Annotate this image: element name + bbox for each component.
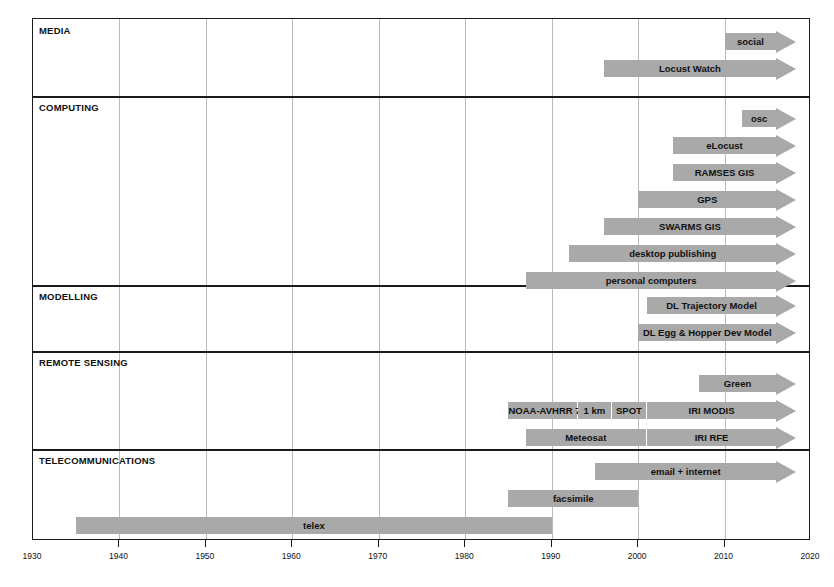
bar-label: osc [742,110,777,127]
timeline-bar-green: Green [699,375,777,392]
timeline-segment-iri-modis: IRI MODIS [647,402,777,419]
section-label-media: MEDIA [39,25,71,36]
axis-tick-1940 [118,540,119,547]
timeline-bar-swarms-gis: SWARMS GIS [604,218,777,235]
axis-tick-label-1950: 1950 [195,551,214,561]
axis-tick-1990 [551,540,552,547]
section-divider-computing [33,96,809,98]
timeline-segment-noaa-avhrr-7km: NOAA-AVHRR 7km [508,402,577,419]
bar-label: DL Egg & Hopper Dev Model [638,324,776,341]
axis-tick-label-1980: 1980 [455,551,474,561]
bar-label: RAMSES GIS [673,164,777,181]
axis-tick-1980 [464,540,465,547]
bar-label: personal computers [526,272,777,289]
axis-tick-label-2010: 2010 [714,551,733,561]
bar-label: Locust Watch [604,60,777,77]
bar-label: IRI RFE [647,429,777,446]
bar-label: Meteosat [526,429,646,446]
section-label-telecommunications: TELECOMMUNICATIONS [39,455,155,466]
plot-area: MEDIACOMPUTINGMODELLINGREMOTE SENSINGTEL… [32,18,810,540]
bar-label: social [725,33,777,50]
bar-label: facsimile [508,490,638,507]
timeline-bar-dl-trajectory-model: DL Trajectory Model [647,297,777,314]
section-divider-remote-sensing [33,351,809,353]
timeline-bar-elocust: eLocust [673,137,777,154]
bar-label: NOAA-AVHRR 7km [508,402,576,419]
timeline-bar-gps: GPS [638,191,776,208]
bar-label: email + internet [595,463,777,480]
timeline-bar-osc: osc [742,110,777,127]
axis-tick-label-2000: 2000 [628,551,647,561]
section-label-remote-sensing: REMOTE SENSING [39,357,128,368]
axis-tick-label-1960: 1960 [282,551,301,561]
axis-tick-1960 [291,540,292,547]
timeline-bar-telex: telex [76,517,551,534]
bar-label: DL Trajectory Model [647,297,777,314]
timeline-bar-email-internet: email + internet [595,463,777,480]
timeline-bar-locust-watch: Locust Watch [604,60,777,77]
timeline-chart: MEDIACOMPUTINGMODELLINGREMOTE SENSINGTEL… [0,0,834,587]
bar-label: telex [76,517,551,534]
axis-tick-label-1970: 1970 [368,551,387,561]
bar-label: IRI MODIS [647,402,777,419]
bar-label: SPOT [612,402,646,419]
axis-tick-label-2020: 2020 [801,551,820,561]
axis-tick-2010 [724,540,725,547]
timeline-bar-facsimile: facsimile [508,490,638,507]
axis-tick-label-1990: 1990 [541,551,560,561]
axis-tick-label-1930: 1930 [23,551,42,561]
section-label-modelling: MODELLING [39,291,98,302]
section-label-computing: COMPUTING [39,102,99,113]
axis-tick-2000 [637,540,638,547]
figure-caption [30,568,810,584]
timeline-segment-spot: SPOT [612,402,647,419]
bar-label: eLocust [673,137,777,154]
bar-label: desktop publishing [569,245,776,262]
timeline-bar-desktop-publishing: desktop publishing [569,245,776,262]
axis-tick-label-1940: 1940 [109,551,128,561]
bar-label: GPS [638,191,776,208]
timeline-segment-meteosat: Meteosat [526,429,647,446]
timeline-bar-dl-egg-hopper-dev-model: DL Egg & Hopper Dev Model [638,324,776,341]
timeline-bar-ramses-gis: RAMSES GIS [673,164,777,181]
timeline-segment-1-km: 1 km [578,402,613,419]
axis-tick-1950 [205,540,206,547]
bar-label: SWARMS GIS [604,218,777,235]
timeline-bar-personal-computers: personal computers [526,272,777,289]
axis-tick-1970 [378,540,379,547]
bar-label: Green [699,375,777,392]
section-divider-telecommunications [33,449,809,451]
timeline-bar-social: social [725,33,777,50]
timeline-bar-group-rainfall-estimate-track: MeteosatIRI RFE [526,429,777,446]
timeline-segment-iri-rfe: IRI RFE [647,429,777,446]
timeline-bar-group-satellite-imagery-track: NOAA-AVHRR 7km1 kmSPOTIRI MODIS [508,402,776,419]
bar-label: 1 km [578,402,612,419]
